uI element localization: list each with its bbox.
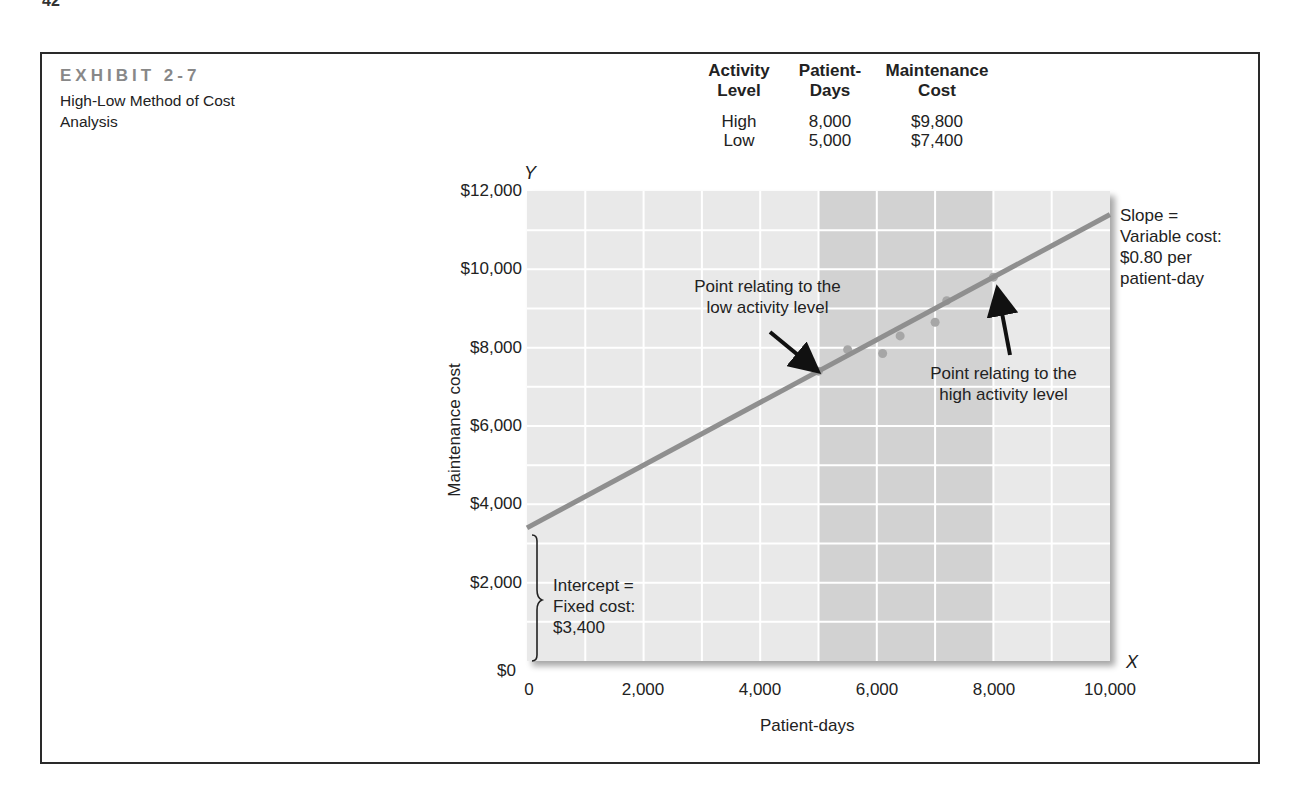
- x-tick: 6,000: [856, 680, 899, 700]
- annotation-line: Point relating to the: [896, 363, 1111, 384]
- y-tick: $0: [497, 661, 516, 681]
- annotation-line: low activity level: [660, 297, 875, 318]
- x-tick: 10,000: [1084, 680, 1136, 700]
- annotation-line: Slope =: [1120, 205, 1222, 226]
- low-point-annotation: Point relating to the low activity level: [660, 276, 875, 318]
- annotation-line: Intercept =: [553, 575, 635, 596]
- y-tick: $4,000: [470, 494, 522, 514]
- x-axis-letter: X: [1126, 652, 1138, 673]
- y-tick: $2,000: [470, 573, 522, 593]
- x-axis-title: Patient-days: [760, 716, 855, 736]
- annotation-line: Variable cost:: [1120, 226, 1222, 247]
- data-point: [931, 318, 940, 327]
- data-point: [896, 331, 905, 340]
- x-tick: 2,000: [622, 680, 665, 700]
- intercept-annotation: Intercept = Fixed cost: $3,400: [553, 575, 635, 638]
- y-tick: $8,000: [470, 338, 522, 358]
- y-tick: $12,000: [461, 181, 522, 201]
- annotation-line: Fixed cost:: [553, 596, 635, 617]
- y-axis-letter: Y: [524, 163, 536, 184]
- x-tick: 8,000: [973, 680, 1016, 700]
- high-point-annotation: Point relating to the high activity leve…: [896, 363, 1111, 405]
- y-axis-title: Maintenance cost: [445, 330, 465, 530]
- annotation-line: $0.80 per: [1120, 247, 1222, 268]
- data-point: [878, 349, 887, 358]
- slope-annotation: Slope = Variable cost: $0.80 per patient…: [1120, 205, 1222, 289]
- y-tick: $10,000: [461, 259, 522, 279]
- annotation-line: $3,400: [553, 617, 635, 638]
- annotation-line: high activity level: [896, 384, 1111, 405]
- y-tick: $6,000: [470, 416, 522, 436]
- x-tick: 0: [524, 680, 533, 700]
- x-tick: 4,000: [739, 680, 782, 700]
- annotation-line: Point relating to the: [660, 276, 875, 297]
- annotation-line: patient-day: [1120, 268, 1222, 289]
- y-axis-ticks: $12,000 $10,000 $8,000 $6,000 $4,000 $2,…: [420, 0, 522, 811]
